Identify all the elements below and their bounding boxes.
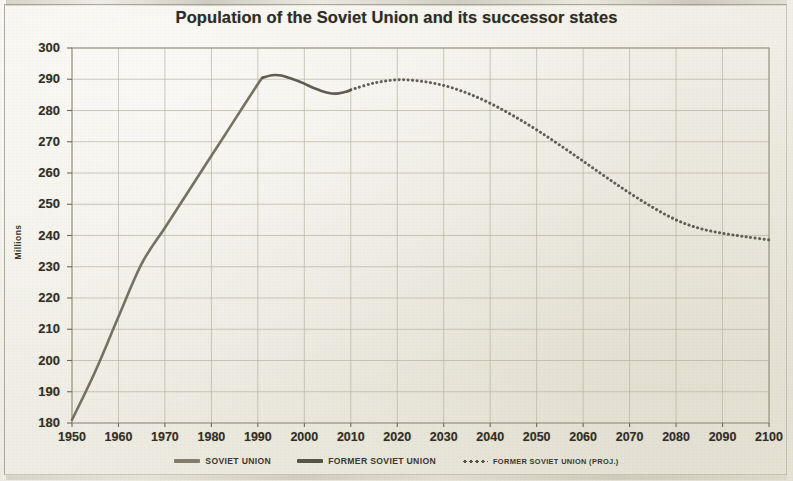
plot-area: Millions 1801902002102202302402502602702… <box>0 0 793 481</box>
x-tick-label: 2020 <box>374 430 420 444</box>
series-line-2 <box>351 80 769 240</box>
x-tick-label: 2010 <box>328 430 374 444</box>
x-tick-label: 1980 <box>188 430 234 444</box>
y-tick-label: 180 <box>20 415 60 430</box>
legend-label: Former Soviet Union (proj.) <box>493 457 619 466</box>
x-tick-label: 2100 <box>746 430 792 444</box>
y-tick-label: 200 <box>20 353 60 368</box>
legend-item[interactable]: Former Soviet Union <box>297 456 436 466</box>
y-tick-label: 270 <box>20 134 60 149</box>
legend-label: Soviet Union <box>205 456 271 466</box>
chart-page: Population of the Soviet Union and its s… <box>0 0 793 481</box>
chart-legend: Soviet UnionFormer Soviet UnionFormer So… <box>0 456 793 466</box>
x-tick-label: 2070 <box>607 430 653 444</box>
series-line-0 <box>72 78 263 420</box>
x-tick-label: 2000 <box>281 430 327 444</box>
x-tick-label: 2030 <box>421 430 467 444</box>
legend-swatch-solid-icon <box>297 459 323 463</box>
y-tick-label: 250 <box>20 196 60 211</box>
legend-swatch-solid-icon <box>174 459 200 463</box>
legend-item[interactable]: Soviet Union <box>174 456 271 466</box>
series-line-1 <box>263 75 351 94</box>
y-tick-label: 280 <box>20 103 60 118</box>
x-tick-label: 1970 <box>142 430 188 444</box>
x-tick-label: 2080 <box>653 430 699 444</box>
y-tick-label: 290 <box>20 71 60 86</box>
x-tick-label: 2050 <box>514 430 560 444</box>
data-series-group <box>72 75 769 420</box>
y-tick-label: 230 <box>20 259 60 274</box>
x-tick-label: 2090 <box>700 430 746 444</box>
x-tick-label: 2060 <box>560 430 606 444</box>
legend-item[interactable]: Former Soviet Union (proj.) <box>462 457 619 466</box>
chart-svg <box>0 0 793 481</box>
gridlines <box>72 48 769 423</box>
y-tick-label: 240 <box>20 228 60 243</box>
legend-swatch-dotted-icon <box>462 460 488 463</box>
x-tick-label: 2040 <box>467 430 513 444</box>
x-tick-label: 1960 <box>95 430 141 444</box>
y-tick-label: 300 <box>20 40 60 55</box>
x-tick-label: 1990 <box>235 430 281 444</box>
y-tick-label: 220 <box>20 290 60 305</box>
y-tick-label: 210 <box>20 321 60 336</box>
y-tick-label: 190 <box>20 384 60 399</box>
legend-label: Former Soviet Union <box>328 456 436 466</box>
x-tick-label: 1950 <box>49 430 95 444</box>
axis-ticks <box>67 48 769 427</box>
y-tick-label: 260 <box>20 165 60 180</box>
